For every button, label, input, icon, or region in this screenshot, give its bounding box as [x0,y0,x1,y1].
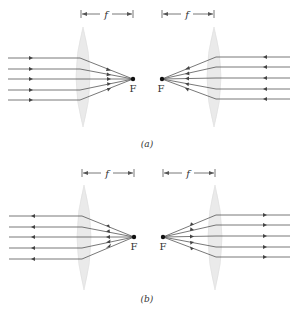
convex-lens [76,27,90,127]
focal-point-label: F [158,83,165,94]
lens-ray-diagram: f F [0,0,294,313]
incoming-rays [8,58,133,100]
focal-point-dot [131,77,135,81]
panel-a-caption: (a) [141,139,154,149]
panel-a-left: f F [8,9,137,127]
focal-point-dot [161,235,165,239]
panel-b-right: f F [160,168,290,290]
ray-arrow-icons [31,214,111,261]
focal-length-label: f [185,168,192,179]
incoming-rays [162,57,290,99]
focal-point-label: F [131,241,138,252]
focal-point-label: F [130,83,137,94]
focal-point-dot [132,235,136,239]
convex-lens [77,185,91,290]
panel-a-right: f F [158,9,290,127]
panel-b-left: f F [9,168,138,290]
focal-length-label: f [184,9,191,20]
focal-point-label: F [160,241,167,252]
convex-lens [208,185,222,290]
focal-length-label: f [104,168,111,179]
panel-b-caption: (b) [141,294,154,304]
outgoing-rays [163,215,290,257]
outgoing-rays [9,216,134,259]
focal-point-dot [160,77,164,81]
focal-length-label: f [103,9,110,20]
convex-lens [207,27,221,127]
